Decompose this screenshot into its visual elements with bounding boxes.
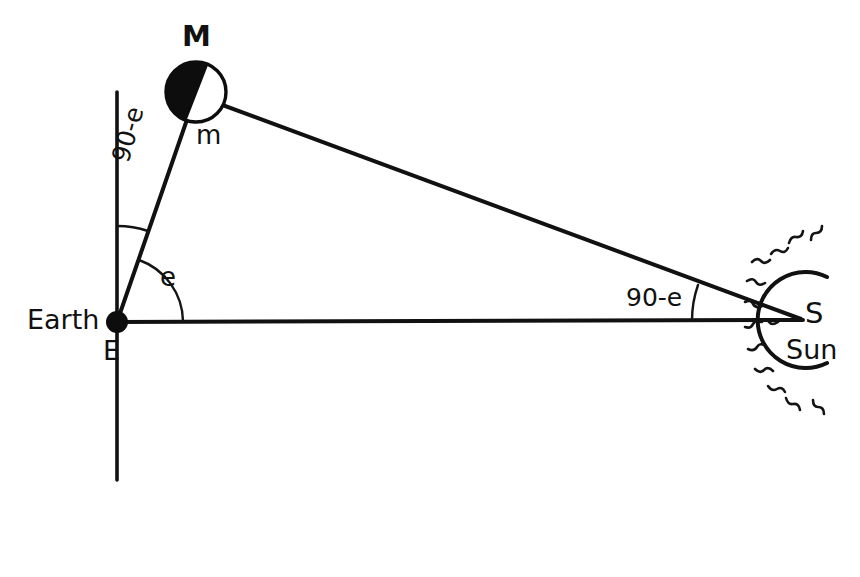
earth-name-label: Earth: [27, 306, 99, 333]
earth-point-label: E: [103, 337, 120, 364]
diagram-svg: [0, 0, 860, 577]
moon-sun-line: [198, 96, 801, 319]
earth-dot: [106, 311, 128, 333]
sun-name-label: Sun: [786, 336, 837, 363]
angle-arc-90-minus-e-sun: [692, 285, 698, 320]
angle-90-minus-e-sun-label: 90-e: [626, 285, 682, 310]
sun-point-label: S: [805, 299, 823, 328]
moon-angle-label: m: [196, 122, 221, 148]
earth-sun-line: [117, 320, 803, 322]
angle-e-label: e: [160, 264, 176, 290]
moon-body: [166, 62, 226, 122]
diagram-canvas: M m Earth E S Sun e 90-e 90-e: [0, 0, 860, 577]
moon-point-label: M: [182, 22, 211, 51]
angle-arc-90-minus-e-earth: [117, 226, 148, 231]
